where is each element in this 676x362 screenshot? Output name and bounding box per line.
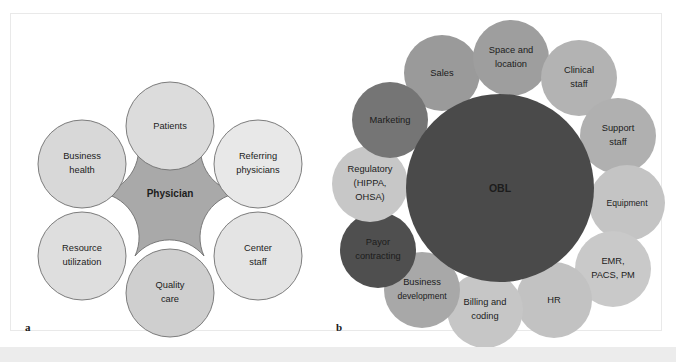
node-resource-utilization-label-line1: Resource: [62, 243, 102, 253]
node-support-staff[interactable]: [580, 98, 656, 174]
node-support-staff-label-line1: Support: [602, 123, 635, 133]
node-regulatory-label-line1: Regulatory: [348, 164, 393, 174]
panel-letter-b: b: [336, 321, 342, 333]
node-quality-care-label-line2: care: [161, 294, 179, 304]
panel-a: Patients Referring physicians Center sta…: [10, 13, 340, 347]
panel-b-diagram: Sales Space and location Clinical staff …: [330, 13, 670, 347]
node-marketing-label: Marketing: [370, 115, 411, 125]
panel-a-diagram: Patients Referring physicians Center sta…: [10, 13, 340, 347]
node-payor-contracting[interactable]: [340, 212, 416, 288]
node-patients-label: Patients: [153, 121, 187, 131]
node-sales-label: Sales: [430, 68, 454, 78]
hub-label-physician: Physician: [147, 188, 194, 199]
hub-label-obl: OBL: [489, 182, 512, 194]
node-center-staff[interactable]: [214, 212, 302, 300]
panel-b: Sales Space and location Clinical staff …: [330, 13, 670, 347]
node-business-development-label-line2: development: [397, 291, 447, 301]
node-regulatory-label-line2: (HIPPA,: [354, 178, 387, 188]
panel-letter-a: a: [25, 321, 31, 333]
node-center-staff-label-line2: staff: [249, 257, 267, 267]
node-payor-contracting-label-line1: Payor: [366, 237, 390, 247]
node-billing-and-coding-label-line2: coding: [471, 311, 498, 321]
node-resource-utilization-label-line2: utilization: [63, 257, 102, 267]
node-business-health[interactable]: [38, 120, 126, 208]
node-clinical-staff-label-line2: staff: [570, 79, 588, 89]
node-quality-care-label-line1: Quality: [156, 280, 185, 290]
node-regulatory-label-line3: OHSA): [355, 192, 384, 202]
node-space-and-location-label-line2: location: [495, 59, 527, 69]
node-clinical-staff-label-line1: Clinical: [564, 65, 594, 75]
node-referring-physicians[interactable]: [214, 120, 302, 208]
node-referring-physicians-label-line1: Referring: [239, 151, 277, 161]
node-space-and-location-label-line1: Space and: [489, 45, 533, 55]
node-equipment-label: Equipment: [606, 198, 648, 208]
node-support-staff-label-line2: staff: [609, 137, 627, 147]
node-payor-contracting-label-line2: contracting: [355, 251, 400, 261]
node-resource-utilization[interactable]: [38, 212, 126, 300]
node-emr-pacs-pm-label-line2: PACS, PM: [591, 270, 635, 280]
figure-root: Patients Referring physicians Center sta…: [0, 0, 676, 362]
node-space-and-location[interactable]: [473, 20, 549, 96]
node-emr-pacs-pm-label-line1: EMR,: [601, 256, 624, 266]
node-hr-label: HR: [547, 295, 561, 305]
node-business-health-label-line1: Business: [63, 151, 101, 161]
node-business-health-label-line2: health: [69, 165, 94, 175]
node-referring-physicians-label-line2: physicians: [236, 165, 280, 175]
node-business-development-label-line1: Business: [403, 277, 441, 287]
node-quality-care[interactable]: [126, 249, 214, 337]
caption-strip: [0, 347, 676, 362]
node-center-staff-label-line1: Center: [244, 243, 272, 253]
node-billing-and-coding-label-line1: Billing and: [464, 297, 507, 307]
